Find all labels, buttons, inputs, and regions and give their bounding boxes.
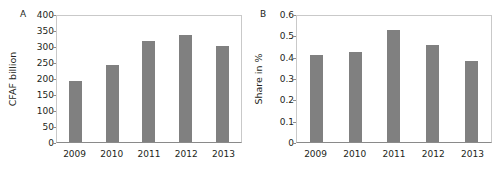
- bar-2012: [179, 35, 192, 142]
- bar-slot: [413, 16, 452, 142]
- bar-2009: [69, 81, 82, 142]
- y-tick-label: 300: [28, 43, 54, 52]
- panel-b: B Share in % 00.10.20.30.40.50.6 2009201…: [252, 0, 504, 180]
- y-tick-label: 0.5: [268, 32, 294, 41]
- panel-a: A CFAF billion 050100150200250300350400 …: [0, 0, 252, 180]
- y-tick-label: 100: [28, 107, 54, 116]
- x-tick-label: 2012: [168, 150, 205, 159]
- y-tick-label: 0.1: [268, 117, 294, 126]
- panel-a-plot-area: [56, 15, 242, 143]
- panel-a-bars: [57, 16, 241, 142]
- panel-a-x-tick-labels: 20092010201120122013: [56, 150, 242, 159]
- y-tick-label: 0.2: [268, 96, 294, 105]
- y-tick-mark: [53, 143, 56, 144]
- y-tick-mark: [293, 143, 296, 144]
- bar-slot: [204, 16, 241, 142]
- y-tick-label: 50: [28, 123, 54, 132]
- bar-2013: [465, 61, 478, 142]
- y-tick-label: 0.6: [268, 11, 294, 20]
- y-tick-label: 0: [28, 139, 54, 148]
- bar-slot: [452, 16, 491, 142]
- bar-2011: [387, 30, 400, 142]
- panel-b-plot-area: [296, 15, 492, 143]
- x-tick-label: 2011: [130, 150, 167, 159]
- x-tick-label: 2009: [56, 150, 93, 159]
- y-tick-label: 200: [28, 75, 54, 84]
- bar-slot: [297, 16, 336, 142]
- y-tick-label: 150: [28, 91, 54, 100]
- bar-2013: [216, 46, 229, 142]
- bar-2011: [142, 41, 155, 142]
- bar-slot: [131, 16, 168, 142]
- y-tick-label: 250: [28, 59, 54, 68]
- y-tick-label: 400: [28, 11, 54, 20]
- x-tick-label: 2010: [93, 150, 130, 159]
- figure-two-panel-bar-charts: A CFAF billion 050100150200250300350400 …: [0, 0, 504, 180]
- x-tick-label: 2009: [296, 150, 335, 159]
- x-tick-label: 2011: [374, 150, 413, 159]
- bar-2010: [106, 65, 119, 142]
- y-tick-label: 0.4: [268, 53, 294, 62]
- panel-b-y-tick-labels: 00.10.20.30.40.50.6: [252, 15, 294, 143]
- bar-2012: [426, 45, 439, 142]
- bar-2010: [349, 52, 362, 142]
- y-tick-label: 0.3: [268, 75, 294, 84]
- x-tick-label: 2012: [414, 150, 453, 159]
- bar-slot: [336, 16, 375, 142]
- panel-a-y-tick-labels: 050100150200250300350400: [0, 15, 54, 143]
- bar-2009: [310, 55, 323, 142]
- panel-b-bars: [297, 16, 491, 142]
- bar-slot: [57, 16, 94, 142]
- y-tick-label: 350: [28, 27, 54, 36]
- x-tick-label: 2013: [453, 150, 492, 159]
- bar-slot: [375, 16, 414, 142]
- bar-slot: [167, 16, 204, 142]
- bar-slot: [94, 16, 131, 142]
- x-tick-label: 2013: [205, 150, 242, 159]
- panel-b-x-tick-labels: 20092010201120122013: [296, 150, 492, 159]
- y-tick-label: 0: [268, 139, 294, 148]
- x-tick-label: 2010: [335, 150, 374, 159]
